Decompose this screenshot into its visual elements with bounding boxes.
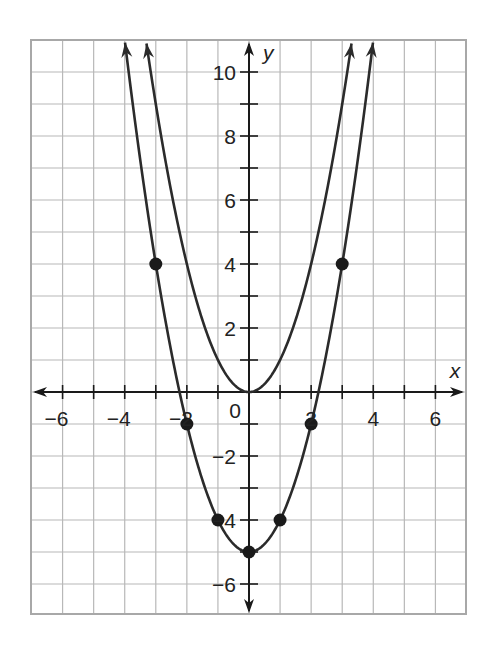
x-axis-label: x [449,359,462,382]
y-tick-label: −6 [212,573,236,596]
origin-label: 0 [229,399,241,422]
data-point [149,258,162,271]
x-tick-label: −6 [45,407,69,430]
y-tick-label: 10 [213,61,236,84]
y-tick-label: −2 [212,445,236,468]
x-tick-label: −4 [107,407,131,430]
x-tick-label: 4 [367,407,379,430]
x-tick-label: 6 [430,407,442,430]
x-tick-label: 2 [305,407,317,430]
data-point [243,546,256,559]
x-tick-label: −2 [169,407,193,430]
y-tick-label: 4 [224,253,236,276]
tick-labels: −6−4−2246−6−4−22468100xy [45,41,462,596]
data-point [336,258,349,271]
data-point [274,514,287,527]
y-tick-label: −4 [212,509,236,532]
y-tick-label: 8 [224,125,236,148]
y-axis-label: y [261,41,275,64]
coordinate-plane: −6−4−2246−6−4−22468100xy [0,0,487,666]
y-tick-label: 6 [224,189,236,212]
y-tick-label: 2 [224,317,236,340]
